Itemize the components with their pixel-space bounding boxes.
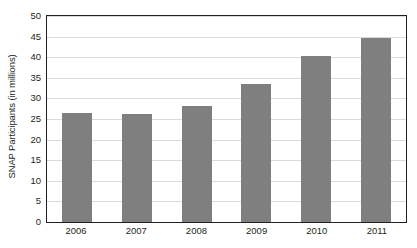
bars-layer bbox=[47, 16, 406, 222]
y-axis-tick-label: 45 bbox=[30, 32, 41, 42]
bar-slot bbox=[47, 16, 107, 222]
x-axis-tick-label: 2009 bbox=[227, 226, 287, 244]
x-axis-tick-label: 2010 bbox=[287, 226, 347, 244]
bar-slot bbox=[286, 16, 346, 222]
y-axis-tick-label: 10 bbox=[30, 176, 41, 186]
bar-slot bbox=[346, 16, 406, 222]
plot-area bbox=[46, 15, 407, 223]
x-axis-tick-labels: 200620072008200920102011 bbox=[46, 226, 407, 244]
y-axis-tick-label: 35 bbox=[30, 73, 41, 83]
y-axis-tick-label: 5 bbox=[36, 197, 41, 207]
y-axis-tick-label: 40 bbox=[30, 52, 41, 62]
snap-participants-bar-chart: SNAP Participants (in millions) 50454035… bbox=[0, 0, 417, 248]
bar-2006 bbox=[62, 113, 92, 222]
bar-2007 bbox=[122, 114, 152, 222]
y-axis-tick-label: 25 bbox=[30, 114, 41, 124]
y-axis-tick-label: 50 bbox=[30, 11, 41, 21]
y-axis-tick-labels: 50454035302520151050 bbox=[22, 16, 44, 222]
x-axis-tick-label: 2006 bbox=[46, 226, 106, 244]
bar-slot bbox=[167, 16, 227, 222]
gridline bbox=[47, 222, 406, 223]
bar-slot bbox=[107, 16, 167, 222]
x-axis-tick-label: 2007 bbox=[106, 226, 166, 244]
y-axis-title: SNAP Participants (in millions) bbox=[0, 0, 22, 232]
bar-2009 bbox=[241, 84, 271, 222]
y-axis-tick-label: 0 bbox=[36, 217, 41, 227]
bar-2008 bbox=[182, 106, 212, 222]
clipped-header-text bbox=[0, 0, 417, 2]
x-axis-tick-label: 2011 bbox=[347, 226, 407, 244]
bar-2010 bbox=[301, 56, 331, 222]
y-axis-tick-label: 15 bbox=[30, 155, 41, 165]
bar-slot bbox=[226, 16, 286, 222]
y-axis-title-label: SNAP Participants (in millions) bbox=[6, 54, 17, 178]
bar-2011 bbox=[361, 38, 391, 222]
y-axis-tick-label: 30 bbox=[30, 94, 41, 104]
y-axis-tick-label: 20 bbox=[30, 135, 41, 145]
x-axis-tick-label: 2008 bbox=[166, 226, 226, 244]
